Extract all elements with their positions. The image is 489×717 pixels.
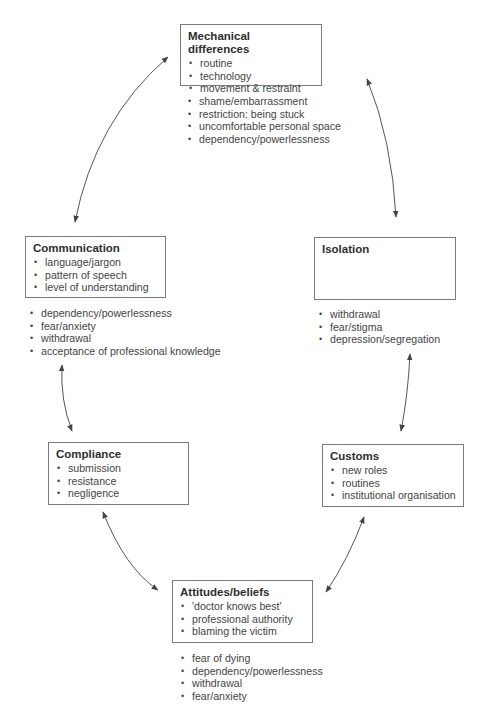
list-item: blaming the victim: [180, 625, 305, 638]
list-item: routine: [188, 57, 314, 70]
node-title: Communication: [33, 242, 158, 255]
list-item: shame/embarrassment: [187, 95, 341, 108]
arrow-mechanical-isolation: [367, 79, 396, 217]
list-item: submission: [56, 462, 181, 475]
list-item: routines: [330, 477, 456, 490]
node-items: language/jargon pattern of speech level …: [33, 256, 158, 294]
list-item: professional authority: [180, 613, 305, 626]
list-item: resistance: [56, 475, 181, 488]
list-item: withdrawal: [318, 308, 440, 321]
list-item: withdrawal: [29, 332, 221, 345]
effects-communication: dependency/powerlessness fear/anxiety wi…: [29, 307, 221, 357]
list-item: negligence: [56, 487, 181, 500]
node-title: Mechanical differences: [188, 30, 314, 56]
node-communication: Communication language/jargon pattern of…: [25, 236, 166, 298]
node-customs: Customs new roles routines institutional…: [322, 444, 464, 507]
node-compliance: Compliance submission resistance neglige…: [48, 442, 189, 505]
effects-isolation: withdrawal fear/stigma depression/segreg…: [318, 308, 440, 346]
arrow-mechanical-communication: [75, 57, 168, 222]
list-item: dependency/powerlessness: [29, 307, 221, 320]
list-item: dependency/powerlessness: [180, 665, 323, 678]
list-item: 'doctor knows best': [180, 600, 305, 613]
effects-attitudes-beliefs: fear of dying dependency/powerlessness w…: [180, 652, 323, 702]
node-title: Customs: [330, 450, 456, 463]
node-title: Isolation: [322, 243, 448, 256]
node-title: Attitudes/beliefs: [180, 586, 305, 599]
list-item: level of understanding: [33, 281, 158, 294]
list-item: dependency/powerlessness: [187, 133, 341, 146]
list-item: restriction: being stuck: [187, 108, 341, 121]
list-item: acceptance of professional knowledge: [29, 345, 221, 358]
arrow-isolation-customs: [401, 354, 410, 431]
list-item: fear/anxiety: [29, 320, 221, 333]
node-mechanical-differences: Mechanical differences routine technolog…: [180, 24, 322, 86]
list-item: institutional organisation: [330, 489, 456, 502]
list-item: technology: [188, 70, 314, 83]
list-item: new roles: [330, 464, 456, 477]
node-attitudes-beliefs: Attitudes/beliefs 'doctor knows best' pr…: [172, 580, 313, 643]
node-isolation: Isolation: [314, 237, 456, 300]
arrow-communication-compliance: [62, 365, 72, 431]
list-item: language/jargon: [33, 256, 158, 269]
node-items: new roles routines institutional organis…: [330, 464, 456, 502]
node-items: routine technology movement & restraint: [188, 57, 314, 95]
list-item: pattern of speech: [33, 269, 158, 282]
list-item: movement & restraint: [188, 82, 314, 95]
effects-mechanical-differences: shame/embarrassment restriction: being s…: [187, 95, 341, 145]
node-title: Compliance: [56, 448, 181, 461]
list-item: withdrawal: [180, 677, 323, 690]
list-item: uncomfortable personal space: [187, 120, 341, 133]
list-item: fear/stigma: [318, 321, 440, 334]
list-item: fear of dying: [180, 652, 323, 665]
arrow-customs-attitudes: [326, 517, 364, 592]
arrow-compliance-attitudes: [103, 512, 158, 590]
list-item: fear/anxiety: [180, 690, 323, 703]
node-items: 'doctor knows best' professional authori…: [180, 600, 305, 638]
node-items: submission resistance negligence: [56, 462, 181, 500]
list-item: depression/segregation: [318, 333, 440, 346]
